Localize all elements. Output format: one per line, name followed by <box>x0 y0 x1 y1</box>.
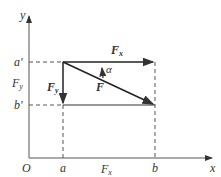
fy-vector-label: Fy <box>47 81 59 95</box>
fx-projection-label: Fx <box>101 163 112 177</box>
point-a-label: a <box>60 162 66 174</box>
point-b-label: b <box>152 162 158 174</box>
angle-alpha-label: α <box>106 64 112 75</box>
y-axis-label: y <box>20 9 25 21</box>
origin-label: O <box>22 162 31 174</box>
f-vector-label: F <box>96 81 104 93</box>
angle-arc-icon <box>102 68 103 78</box>
point-a-prime-label: a' <box>14 56 23 68</box>
fy-projection-label: Fy <box>12 77 23 91</box>
x-axis-label: x <box>210 162 215 174</box>
diagram-canvas <box>0 0 221 177</box>
fx-vector-label: Fx <box>111 44 123 58</box>
point-b-prime-label: b' <box>14 99 23 111</box>
